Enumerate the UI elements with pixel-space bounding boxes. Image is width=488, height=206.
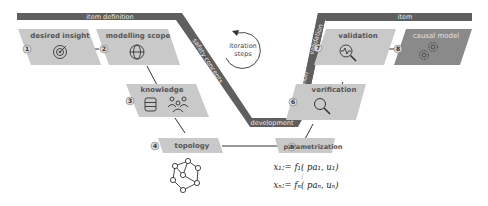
step-desired-insight[interactable]: desired insight 1 — [18, 29, 101, 65]
step-validation[interactable]: validation 7 — [314, 29, 396, 65]
step-parametrization[interactable]: 5 parametrization — [275, 138, 343, 153]
iteration-line1: iteration — [229, 42, 256, 50]
step-knowledge[interactable]: knowledge 3 — [126, 84, 209, 117]
step-number: 6 — [291, 98, 295, 105]
step-title: causal model — [413, 32, 460, 40]
step-title: modelling scope — [106, 32, 171, 40]
step-number: 1 — [25, 45, 29, 52]
iteration-steps: iteration steps — [226, 30, 260, 68]
step-title: parametrization — [284, 143, 343, 151]
step-title: validation — [338, 32, 377, 40]
step-verification[interactable]: verification 6 — [286, 84, 366, 120]
step-title: knowledge — [141, 86, 184, 94]
step-number: 8 — [396, 45, 400, 52]
graph-network-icon — [170, 158, 200, 192]
step-title: desired insight — [30, 32, 90, 40]
iteration-line2: steps — [234, 50, 252, 58]
label-safety-concepts: safety concepts — [191, 37, 225, 85]
step-number: 4 — [153, 142, 157, 149]
equation-last: xₙ:= fₙ( paₙ, uₙ) — [273, 180, 338, 190]
v-model-diagram: item definition safety concepts developm… — [0, 0, 488, 206]
equation-ellipsis: ⋮ — [299, 172, 305, 179]
step-causal-model[interactable]: causal model 8 — [394, 29, 472, 65]
structural-equations: x₁:= f₁( pa₁, u₁) ⋮ xₙ:= fₙ( paₙ, uₙ) — [273, 162, 338, 190]
label-item-definition: item definition — [86, 13, 133, 21]
step-number: 2 — [102, 45, 106, 52]
equation-first: x₁:= f₁( pa₁, u₁) — [274, 162, 339, 172]
label-development: development — [251, 119, 294, 127]
step-modelling-scope[interactable]: modelling scope 2 — [96, 29, 180, 65]
band-item — [318, 13, 472, 21]
step-number: 3 — [128, 97, 132, 104]
step-title: topology — [175, 142, 210, 150]
label-item: item — [398, 13, 413, 21]
step-topology[interactable]: topology 4 — [151, 138, 223, 193]
step-title: verification — [312, 86, 357, 94]
step-number: 7 — [316, 44, 320, 51]
